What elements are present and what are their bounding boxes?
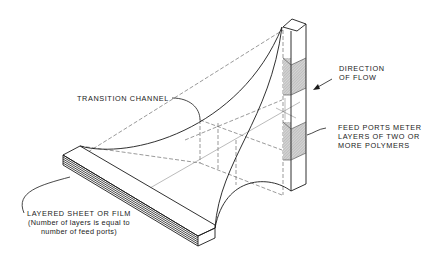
label-direction-line1: DIRECTION xyxy=(339,64,385,73)
leader-feed-ports xyxy=(307,128,326,135)
label-layered-sheet-note-line2: number of feed ports) xyxy=(27,227,131,236)
label-direction-of-flow: DIRECTION OF FLOW xyxy=(339,64,385,82)
label-feed-ports-line2: LAYERS OF TWO OR xyxy=(338,132,422,141)
label-transition-channel: TRANSITION CHANNEL xyxy=(77,94,169,103)
label-feed-ports: FEED PORTS METER LAYERS OF TWO OR MORE P… xyxy=(338,123,422,150)
label-direction-line2: OF FLOW xyxy=(339,73,385,82)
label-layered-sheet-title: LAYERED SHEET OR FILM xyxy=(27,209,131,218)
arrowhead-icon xyxy=(313,84,320,90)
label-layered-sheet-note-line1: (Number of layers is equal to xyxy=(27,218,131,227)
label-feed-ports-line3: MORE POLYMERS xyxy=(338,141,422,150)
transition-channel xyxy=(80,27,291,228)
construction-lines xyxy=(148,98,300,205)
label-feed-ports-line1: FEED PORTS METER xyxy=(338,123,422,132)
leader-layered-sheet xyxy=(22,177,70,213)
label-layered-sheet: LAYERED SHEET OR FILM (Number of layers … xyxy=(27,209,131,236)
flow-arrow xyxy=(313,79,332,90)
leader-transition-channel xyxy=(172,98,200,120)
